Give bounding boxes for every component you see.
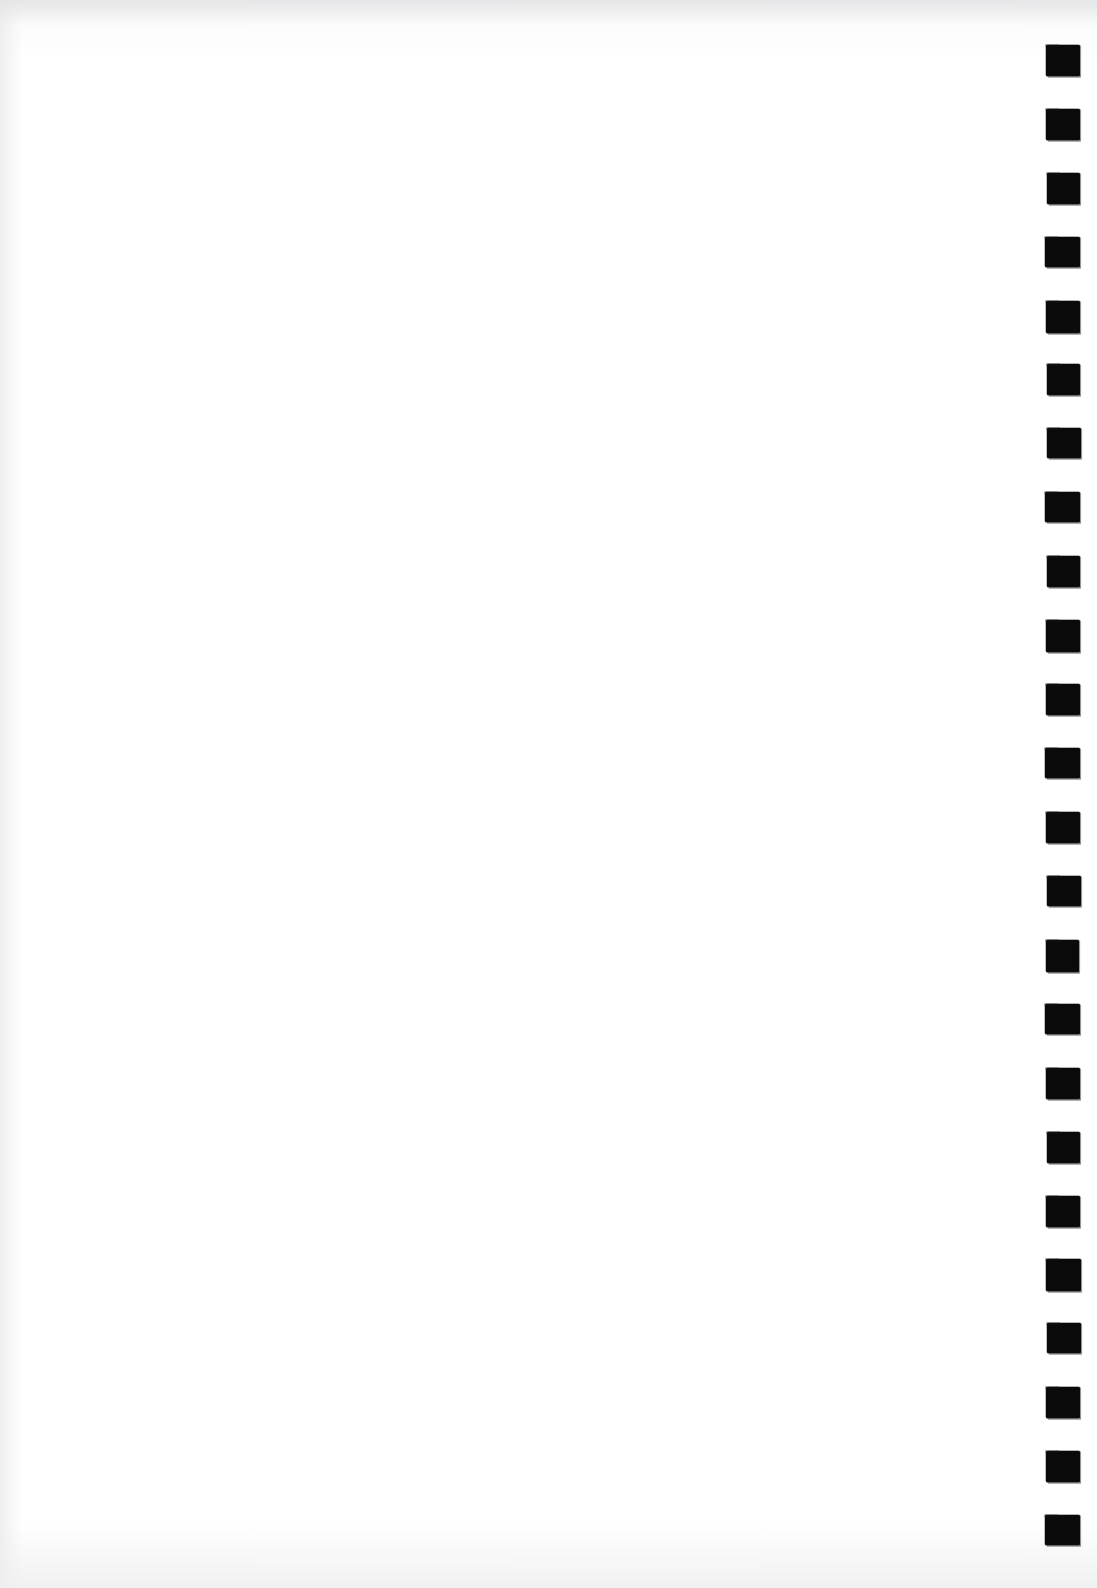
registration-mark — [1047, 364, 1080, 395]
registration-mark — [1046, 45, 1080, 76]
registration-mark — [1045, 1004, 1080, 1034]
registration-mark — [1045, 492, 1080, 522]
registration-mark — [1046, 1451, 1080, 1482]
registration-mark — [1047, 1323, 1081, 1353]
registration-mark — [1047, 173, 1080, 204]
registration-mark — [1046, 940, 1079, 972]
registration-mark — [1046, 620, 1080, 652]
registration-mark — [1046, 1259, 1081, 1291]
registration-mark — [1047, 876, 1081, 906]
registration-mark — [1046, 1387, 1080, 1418]
scanned-page — [0, 0, 1097, 1588]
page-content-area — [0, 0, 1030, 1588]
registration-mark — [1046, 109, 1080, 140]
registration-mark — [1046, 684, 1080, 715]
registration-mark — [1046, 1196, 1080, 1227]
registration-mark — [1045, 748, 1080, 778]
registration-mark — [1045, 1515, 1080, 1545]
registration-mark-column — [1030, 0, 1097, 1588]
registration-mark — [1047, 1132, 1080, 1163]
registration-mark — [1045, 237, 1080, 267]
registration-mark — [1046, 812, 1080, 843]
registration-mark — [1046, 1068, 1080, 1099]
registration-mark — [1046, 301, 1080, 333]
registration-mark — [1047, 428, 1081, 458]
registration-mark — [1047, 556, 1080, 587]
